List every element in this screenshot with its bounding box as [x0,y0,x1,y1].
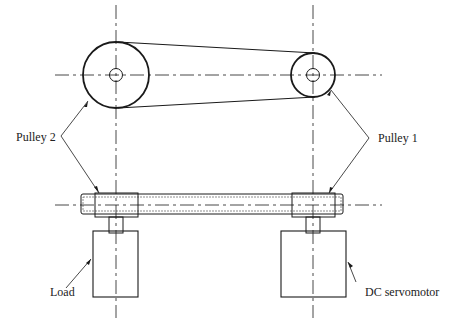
belt-drive-diagram [0,0,453,321]
label-dc-servomotor: DC servomotor [365,285,439,300]
label-pulley-2: Pulley 2 [16,130,56,145]
centerlines [55,5,382,318]
label-pulley-1: Pulley 1 [378,131,418,146]
load-box [93,231,138,297]
label-load: Load [50,285,75,300]
motor-box [281,231,346,297]
leader-lines [61,90,369,288]
